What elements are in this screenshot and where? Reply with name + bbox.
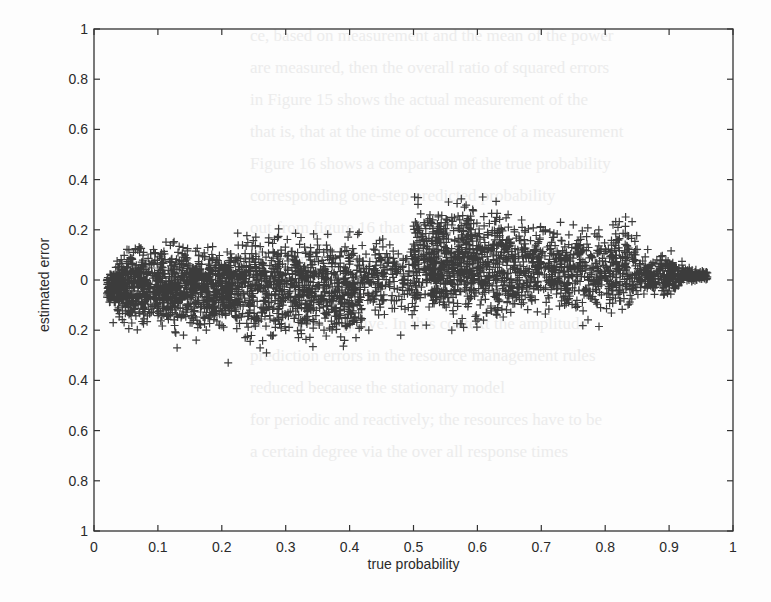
x-tick-label: 0.2 xyxy=(212,539,232,555)
x-tick-label: 0.6 xyxy=(468,539,488,555)
x-tick-label: 0 xyxy=(90,539,98,555)
y-tick-label: 1 xyxy=(80,21,88,37)
x-tick-label: 0.4 xyxy=(340,539,360,555)
y-tick-labels: 10.80.60.40.200.20.40.60.81 xyxy=(69,21,89,539)
y-tick-label: 0.4 xyxy=(69,172,89,188)
x-tick-label: 0.7 xyxy=(532,539,552,555)
y-tick-label: 1 xyxy=(80,523,88,539)
y-tick-label: 0.2 xyxy=(69,222,89,238)
y-tick-label: 0.6 xyxy=(69,423,89,439)
data-points xyxy=(103,193,712,367)
x-tick-label: 0.9 xyxy=(659,539,679,555)
y-axis-title: estimated error xyxy=(36,238,52,332)
y-tick-label: 0.6 xyxy=(69,121,89,137)
x-tick-label: 1 xyxy=(729,539,737,555)
scatter-chart: 00.10.20.30.40.50.60.70.80.91 10.80.60.4… xyxy=(0,0,771,602)
y-tick-label: 0.2 xyxy=(69,322,89,338)
x-tick-label: 0.5 xyxy=(404,539,424,555)
x-axis-title: true probability xyxy=(368,556,460,572)
x-tick-label: 0.8 xyxy=(595,539,615,555)
x-tick-labels: 00.10.20.30.40.50.60.70.80.91 xyxy=(90,539,737,555)
y-tick-label: 0.4 xyxy=(69,372,89,388)
y-tick-label: 0.8 xyxy=(69,71,89,87)
y-tick-label: 0.8 xyxy=(69,473,89,489)
x-tick-label: 0.1 xyxy=(148,539,168,555)
x-tick-label: 0.3 xyxy=(276,539,296,555)
y-tick-label: 0 xyxy=(80,272,88,288)
